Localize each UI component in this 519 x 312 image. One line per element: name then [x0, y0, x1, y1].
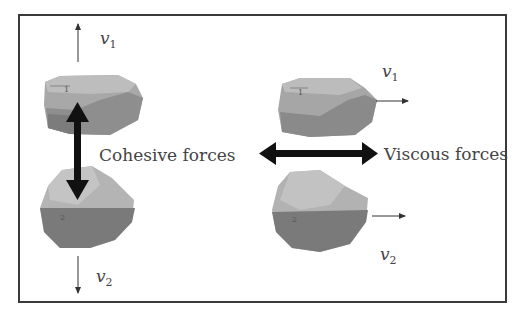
svg-text:1: 1: [64, 85, 69, 94]
left-particle-2: 2: [40, 166, 135, 248]
right-particle-2: 2: [272, 170, 368, 252]
right-particle-1: 1: [278, 78, 377, 137]
viscous-force-arrow: [259, 142, 378, 165]
left-particle-1: 1: [44, 75, 143, 135]
svg-text:2: 2: [292, 215, 297, 224]
left-velocity-2-label: v2: [96, 266, 113, 289]
right-velocity-1-label: v1: [382, 61, 399, 84]
svg-text:1: 1: [298, 88, 303, 97]
viscous-forces-label: Viscous forces: [384, 144, 508, 164]
cohesive-force-arrow: [66, 102, 89, 200]
left-velocity-1-label: v1: [100, 28, 117, 51]
right-velocity-2-label: v2: [380, 244, 397, 267]
cohesive-forces-label: Cohesive forces: [99, 145, 235, 165]
svg-text:2: 2: [60, 213, 65, 222]
